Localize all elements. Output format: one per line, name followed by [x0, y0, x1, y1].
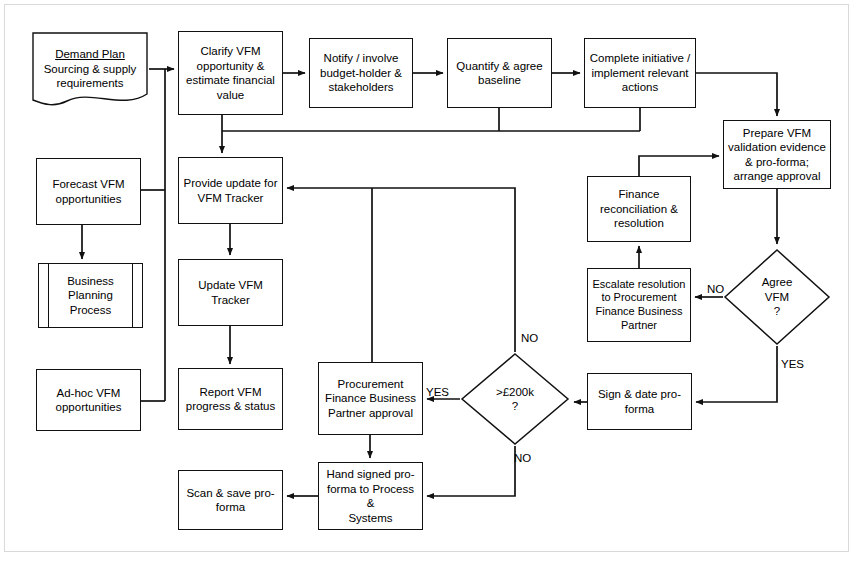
node-update-tracker[interactable]: Update VFM Tracker: [178, 259, 283, 326]
node-demand-plan-title: Demand Plan: [55, 48, 125, 60]
edge-threshold-no-to-provide: [287, 188, 515, 352]
edge-agree-yes-to-sign: [696, 346, 777, 402]
node-clarify-vfm[interactable]: Clarify VFM opportunity & estimate finan…: [178, 31, 283, 115]
node-hand-signed-label: Hand signed pro- forma to Process & Syst…: [319, 467, 422, 525]
node-hand-signed[interactable]: Hand signed pro- forma to Process & Syst…: [318, 462, 423, 530]
node-notify-involve[interactable]: Notify / involve budget-holder & stakeho…: [309, 38, 413, 108]
node-scan-save-label: Scan & save pro- forma: [183, 486, 277, 515]
node-quantify-baseline[interactable]: Quantify & agree baseline: [447, 38, 552, 108]
node-prepare-vfm-label: Prepare VFM validation evidence & pro-fo…: [725, 126, 829, 184]
node-finance-reconciliation[interactable]: Finance reconciliation & resolution: [587, 176, 691, 242]
node-threshold-decision-label: >£200k ?: [493, 385, 537, 414]
edge-complete-to-prepare: [696, 73, 777, 116]
node-prepare-vfm[interactable]: Prepare VFM validation evidence & pro-fo…: [723, 120, 831, 189]
node-agree-vfm-decision[interactable]: Agree VFM ?: [723, 248, 831, 346]
node-scan-save[interactable]: Scan & save pro- forma: [178, 470, 283, 530]
node-report-vfm-label: Report VFM progress & status: [183, 385, 278, 414]
node-update-tracker-label: Update VFM Tracker: [195, 278, 266, 307]
node-complete-initiative-label: Complete initiative / implement relevant…: [587, 51, 693, 95]
edge-finance-to-prepare: [639, 156, 719, 176]
node-provide-update-label: Provide update for VFM Tracker: [181, 176, 281, 205]
flowchart-canvas: Demand PlanSourcing & supply requirement…: [0, 0, 860, 561]
edge-threshold-no-to-hand: [427, 446, 515, 496]
edge-label-threshold-no-bottom: NO: [514, 452, 531, 464]
node-notify-involve-label: Notify / involve budget-holder & stakeho…: [317, 51, 405, 95]
node-agree-vfm-label: Agree VFM ?: [759, 275, 796, 319]
edge-label-agree-vfm-no: NO: [707, 283, 724, 295]
node-adhoc-vfm[interactable]: Ad-hoc VFM opportunities: [36, 369, 141, 431]
node-forecast-vfm-label: Forecast VFM opportunities: [49, 177, 127, 206]
edge-label-threshold-no-top: NO: [521, 332, 538, 344]
node-pfbp-approval-label: Procurement Finance Business Partner app…: [322, 377, 419, 421]
node-demand-plan-body: Sourcing & supply requirements: [44, 63, 137, 90]
node-sign-date-label: Sign & date pro- forma: [595, 387, 684, 416]
node-demand-plan-label: Demand PlanSourcing & supply requirement…: [41, 47, 140, 91]
node-report-vfm[interactable]: Report VFM progress & status: [178, 368, 283, 430]
node-clarify-vfm-label: Clarify VFM opportunity & estimate finan…: [183, 44, 278, 102]
edge-label-agree-vfm-yes: YES: [781, 358, 804, 370]
node-demand-plan[interactable]: Demand PlanSourcing & supply requirement…: [31, 31, 149, 107]
node-business-planning-label: Business Planning Process: [64, 274, 117, 318]
node-finance-reconciliation-label: Finance reconciliation & resolution: [597, 187, 681, 231]
node-provide-update[interactable]: Provide update for VFM Tracker: [178, 157, 283, 224]
node-escalate-resolution[interactable]: Escalate resolution to Procurement Finan…: [587, 268, 691, 342]
edge-label-threshold-yes: YES: [426, 386, 449, 398]
node-sign-date[interactable]: Sign & date pro- forma: [587, 373, 692, 430]
node-adhoc-vfm-label: Ad-hoc VFM opportunities: [53, 386, 125, 415]
node-complete-initiative[interactable]: Complete initiative / implement relevant…: [584, 38, 696, 108]
node-pfbp-approval[interactable]: Procurement Finance Business Partner app…: [318, 362, 423, 435]
node-business-planning[interactable]: Business Planning Process: [38, 263, 143, 328]
node-threshold-decision[interactable]: >£200k ?: [460, 352, 570, 446]
node-forecast-vfm[interactable]: Forecast VFM opportunities: [36, 158, 141, 225]
node-quantify-baseline-label: Quantify & agree baseline: [453, 59, 545, 88]
node-escalate-resolution-label: Escalate resolution to Procurement Finan…: [590, 278, 689, 332]
